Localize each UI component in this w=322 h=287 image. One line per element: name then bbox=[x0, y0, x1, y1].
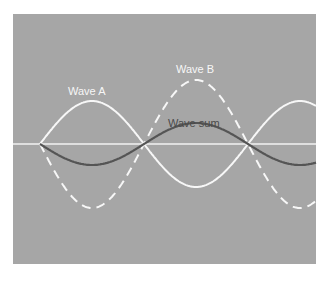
wave-a-label: Wave A bbox=[68, 85, 106, 97]
wave-sum-label: Wave sum bbox=[168, 117, 220, 129]
wave-b-label: Wave B bbox=[176, 63, 214, 75]
wave-interference-diagram: Wave A Wave B Wave sum bbox=[0, 0, 322, 287]
diagram-panel bbox=[13, 14, 316, 264]
